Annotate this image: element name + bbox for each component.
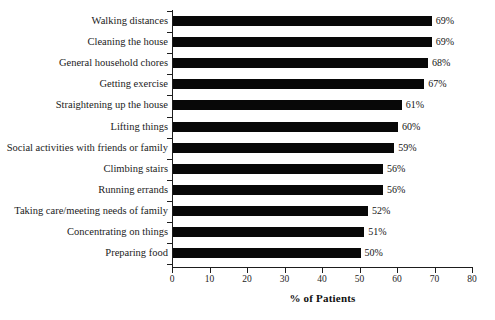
bar-value-label: 50%	[365, 247, 383, 259]
x-axis-tick	[247, 268, 248, 273]
bar-value-label: 51%	[368, 226, 386, 238]
x-axis-tick-label: 70	[420, 274, 450, 285]
category-label: Running errands	[98, 183, 168, 197]
x-axis-tick	[397, 268, 398, 273]
bar-row: Cleaning the house69%	[0, 37, 495, 48]
y-axis-tick	[167, 264, 172, 265]
y-axis-tick	[167, 159, 172, 160]
category-label: Climbing stairs	[104, 162, 168, 176]
x-axis-tick-label: 60	[382, 274, 412, 285]
bar	[173, 227, 364, 237]
category-label: Cleaning the house	[88, 35, 168, 49]
bar-value-label: 59%	[398, 142, 416, 154]
y-axis-tick	[167, 138, 172, 139]
x-axis-tick-label: 20	[232, 274, 262, 285]
bar	[173, 37, 432, 47]
category-label: Social activities with friends or family	[7, 141, 168, 155]
bar-row: Social activities with friends or family…	[0, 143, 495, 154]
category-label: Getting exercise	[99, 77, 168, 91]
bar	[173, 164, 383, 174]
category-label: Lifting things	[111, 120, 168, 134]
bar-value-label: 56%	[387, 163, 405, 175]
bar-row: Climbing stairs56%	[0, 164, 495, 175]
bar	[173, 16, 432, 26]
x-axis-tick-label: 50	[345, 274, 375, 285]
bar-value-label: 67%	[428, 78, 446, 90]
category-label: Taking care/meeting needs of family	[14, 204, 168, 218]
y-axis-tick	[167, 74, 172, 75]
x-axis-title: % of Patients	[172, 292, 473, 304]
category-label: Preparing food	[105, 246, 168, 260]
category-label: Concentrating on things	[67, 225, 168, 239]
bar-row: Preparing food50%	[0, 248, 495, 259]
x-axis-tick-label: 0	[157, 274, 187, 285]
y-axis-tick	[167, 180, 172, 181]
x-axis-tick-label: 30	[270, 274, 300, 285]
bar-row: Lifting things60%	[0, 122, 495, 133]
y-axis-tick	[167, 117, 172, 118]
y-axis-tick	[167, 32, 172, 33]
x-axis-tick-label: 40	[307, 274, 337, 285]
bar-value-label: 56%	[387, 184, 405, 196]
bar-row: Walking distances69%	[0, 16, 495, 27]
x-axis-tick	[360, 268, 361, 273]
bar	[173, 143, 394, 153]
y-axis-tick	[167, 11, 172, 12]
bar-value-label: 68%	[432, 57, 450, 69]
category-label: Walking distances	[92, 14, 168, 28]
bar-value-label: 52%	[372, 205, 390, 217]
bar	[173, 122, 398, 132]
x-axis-tick	[285, 268, 286, 273]
bar	[173, 206, 368, 216]
x-axis-tick	[435, 268, 436, 273]
bar-value-label: 69%	[436, 36, 454, 48]
x-axis-tick	[322, 268, 323, 273]
x-axis-tick	[172, 268, 173, 273]
bar-row: Straightening up the house61%	[0, 100, 495, 111]
x-axis-tick	[472, 268, 473, 273]
x-axis-tick-label: 10	[195, 274, 225, 285]
category-label: Straightening up the house	[56, 98, 168, 112]
bar	[173, 100, 402, 110]
bar-chart: Walking distances69%Cleaning the house69…	[0, 0, 495, 320]
y-axis-tick	[167, 53, 172, 54]
bar	[173, 58, 428, 68]
x-axis-tick	[210, 268, 211, 273]
bar-value-label: 61%	[406, 99, 424, 111]
y-axis-tick	[167, 243, 172, 244]
bar-row: Getting exercise67%	[0, 79, 495, 90]
bar	[173, 185, 383, 195]
bar-row: Running errands56%	[0, 185, 495, 196]
bar-row: Taking care/meeting needs of family52%	[0, 206, 495, 217]
bar-value-label: 60%	[402, 121, 420, 133]
bar-value-label: 69%	[436, 15, 454, 27]
bar-row: Concentrating on things51%	[0, 227, 495, 238]
category-label: General household chores	[59, 56, 168, 70]
x-axis-tick-label: 80	[457, 274, 487, 285]
bar-row: General household chores68%	[0, 58, 495, 69]
y-axis-tick	[167, 95, 172, 96]
y-axis-tick	[167, 222, 172, 223]
y-axis-tick	[167, 201, 172, 202]
bar	[173, 79, 424, 89]
bar	[173, 248, 361, 258]
